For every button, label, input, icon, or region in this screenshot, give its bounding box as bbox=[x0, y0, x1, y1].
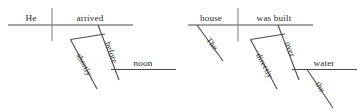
adverb-connector-left bbox=[71, 34, 106, 40]
label-verb-was-built: was built bbox=[257, 13, 292, 23]
label-adverb-directly: directly bbox=[254, 52, 275, 80]
label-adverb-shortly: shortly bbox=[74, 52, 94, 78]
adverb-connector-right bbox=[251, 34, 286, 40]
label-verb-arrived: arrived bbox=[76, 13, 103, 23]
sentence-diagram-figure: He arrived before noon shortly bbox=[0, 0, 360, 112]
label-preposition-before: before bbox=[103, 40, 119, 64]
label-object-noon: noon bbox=[134, 58, 153, 68]
label-object-water: water bbox=[313, 58, 334, 68]
diagram-canvas: He arrived before noon shortly bbox=[0, 0, 360, 112]
diagram-left: He arrived before noon shortly bbox=[8, 8, 176, 89]
label-subject-he: He bbox=[25, 13, 36, 23]
label-preposition-over: over bbox=[283, 40, 297, 58]
diagram-right: house was built The over water the direc… bbox=[188, 8, 357, 108]
label-article-the-subject: The bbox=[204, 36, 219, 52]
label-subject-house: house bbox=[200, 13, 222, 23]
